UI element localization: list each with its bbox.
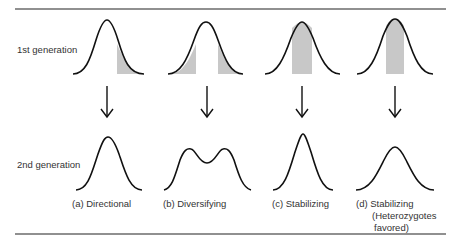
- arrow-down-icon: [101, 86, 113, 117]
- panel-a-first-gen-curve: [73, 20, 144, 74]
- panel-b-label: (b) Diversifying: [163, 198, 226, 209]
- panel-d-label-line2: (Heterozygotes: [372, 210, 436, 221]
- panel-c-first-gen-curve: [265, 22, 340, 74]
- panel-c-label: (c) Stabilizing: [272, 198, 329, 209]
- panel-c-second-gen-curve: [273, 134, 333, 190]
- panel-d-label-line1: (d) Stabilizing: [356, 198, 414, 209]
- panel-b-second-gen-curve: [164, 149, 251, 190]
- panel-d-first-gen-curve: [357, 19, 433, 74]
- panel-d-second-gen-curve: [356, 147, 434, 190]
- panel-d-label-line3: favored): [374, 222, 409, 233]
- second-generation-label: 2nd generation: [17, 159, 80, 170]
- arrow-down-icon: [201, 86, 213, 117]
- panel-a-second-gen-curve: [76, 137, 142, 190]
- first-generation-label: 1st generation: [17, 44, 77, 55]
- arrow-down-icon: [296, 86, 308, 117]
- panel-b-first-gen-curve: [168, 22, 243, 74]
- panel-a-label: (a) Directional: [72, 198, 131, 209]
- arrow-down-icon: [389, 86, 401, 117]
